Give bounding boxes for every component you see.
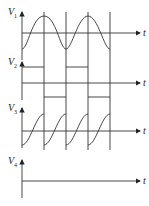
v4-t-label: t bbox=[143, 176, 146, 186]
v3-wave-segment bbox=[88, 114, 110, 145]
v1-t-label: t bbox=[143, 28, 146, 38]
v3-t-label: t bbox=[143, 126, 146, 136]
waveform-diagram bbox=[0, 0, 149, 206]
v3-wave-segment bbox=[66, 114, 88, 145]
v3-wave-segment bbox=[44, 114, 66, 145]
v3-wave-segment bbox=[22, 114, 44, 145]
v2-label: V2 bbox=[8, 57, 17, 71]
v2-t-label: t bbox=[143, 78, 146, 88]
v3-label: V3 bbox=[8, 103, 17, 117]
v1-label: V1 bbox=[8, 7, 17, 21]
v4-label: V4 bbox=[8, 156, 17, 170]
